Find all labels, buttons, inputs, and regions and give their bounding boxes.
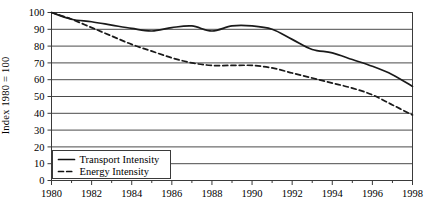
line-chart: Index 1980 = 100 1009080706050403020100 … xyxy=(0,0,430,218)
y-tick-label: 40 xyxy=(34,108,45,119)
y-tick-label: 60 xyxy=(34,74,45,85)
y-axis-ticks xyxy=(48,13,52,181)
y-tick-label: 50 xyxy=(34,91,45,102)
y-tick-label: 30 xyxy=(34,125,45,136)
y-tick-label: 100 xyxy=(29,7,45,18)
y-tick-label: 80 xyxy=(34,41,45,52)
y-axis-tick-labels: 1009080706050403020100 xyxy=(29,7,45,186)
x-tick-label: 1990 xyxy=(242,188,263,199)
x-tick-label: 1988 xyxy=(201,188,222,199)
x-tick-label: 1980 xyxy=(41,188,62,199)
y-tick-label: 0 xyxy=(39,175,44,186)
x-tick-label: 1986 xyxy=(161,188,182,199)
x-tick-label: 1984 xyxy=(121,188,143,199)
x-tick-label: 1992 xyxy=(282,188,303,199)
series-line-1 xyxy=(52,13,413,87)
x-axis-ticks xyxy=(52,181,413,186)
gridlines xyxy=(52,13,413,164)
legend-label-1[interactable]: Transport Intensity xyxy=(80,154,161,165)
x-tick-label: 1994 xyxy=(322,188,344,199)
y-tick-label: 10 xyxy=(34,158,45,169)
y-tick-label: 70 xyxy=(34,58,45,69)
series-layer xyxy=(52,13,413,115)
x-tick-label: 1996 xyxy=(362,188,383,199)
chart-legend[interactable]: Transport IntensityEnergy Intensity xyxy=(53,151,171,179)
x-tick-label: 1998 xyxy=(402,188,423,199)
chart-canvas: 1009080706050403020100 19801982198419861… xyxy=(0,0,430,218)
legend-label-2[interactable]: Energy Intensity xyxy=(80,166,150,177)
y-tick-label: 90 xyxy=(34,24,45,35)
x-axis-tick-labels: 1980198219841986198819901992199419961998 xyxy=(41,188,423,199)
y-tick-label: 20 xyxy=(34,142,45,153)
series-line-2 xyxy=(52,13,413,115)
x-tick-label: 1982 xyxy=(81,188,102,199)
